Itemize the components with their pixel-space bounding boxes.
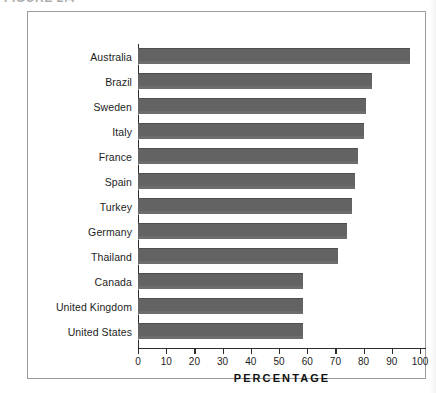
value-axis-tick-label: 100 bbox=[412, 356, 429, 367]
bar bbox=[138, 198, 352, 214]
bar-row: Spain bbox=[138, 169, 355, 194]
bar bbox=[138, 48, 410, 64]
bar-category-label: Sweden bbox=[93, 101, 132, 113]
value-axis-tick-mark bbox=[223, 349, 224, 354]
value-axis-tick-label: 40 bbox=[245, 356, 256, 367]
bar-category-label: Australia bbox=[90, 51, 132, 63]
bar-category-label: Thailand bbox=[91, 251, 132, 263]
value-axis-tick-mark bbox=[194, 349, 195, 354]
value-axis-tick-label: 30 bbox=[217, 356, 228, 367]
bar bbox=[138, 148, 358, 164]
value-axis-tick-label: 10 bbox=[161, 356, 172, 367]
value-axis-tick-label: 70 bbox=[330, 356, 341, 367]
bar-category-label: Germany bbox=[88, 226, 132, 238]
bar bbox=[138, 273, 303, 289]
bar bbox=[138, 323, 303, 339]
page-edge-shading bbox=[430, 0, 436, 393]
bar-category-label: Canada bbox=[95, 276, 132, 288]
bar-row: United Kingdom bbox=[138, 294, 303, 319]
value-axis-tick-mark bbox=[166, 349, 167, 354]
value-axis-tick-label: 80 bbox=[358, 356, 369, 367]
bar bbox=[138, 298, 303, 314]
bar-row: Brazil bbox=[138, 69, 372, 94]
value-axis-tick-mark bbox=[279, 349, 280, 354]
bar bbox=[138, 123, 364, 139]
figure-caption-text: FIGURE 2.4 bbox=[4, 0, 75, 5]
bar-category-label: Turkey bbox=[100, 201, 132, 213]
bar bbox=[138, 248, 338, 264]
bar bbox=[138, 173, 355, 189]
figure-frame: AustraliaBrazilSwedenItalyFranceSpainTur… bbox=[27, 11, 426, 379]
value-axis-line bbox=[138, 348, 426, 349]
bar-row: France bbox=[138, 144, 358, 169]
bar-row: Italy bbox=[138, 119, 364, 144]
value-axis-tick-mark bbox=[364, 349, 365, 354]
bar-row: United States bbox=[138, 319, 303, 344]
bar-row: Thailand bbox=[138, 244, 338, 269]
bar-category-label: Italy bbox=[112, 126, 132, 138]
bar-row: Canada bbox=[138, 269, 303, 294]
bar-category-label: France bbox=[99, 151, 132, 163]
bar-row: Australia bbox=[138, 44, 410, 69]
value-axis-tick-label: 20 bbox=[189, 356, 200, 367]
bar-row: Sweden bbox=[138, 94, 366, 119]
bar-row: Turkey bbox=[138, 194, 352, 219]
bar-category-label: United States bbox=[68, 326, 132, 338]
value-axis-tick-mark bbox=[392, 349, 393, 354]
value-axis-tick-mark bbox=[138, 349, 139, 354]
bar-row: Germany bbox=[138, 219, 347, 244]
bar-category-label: United Kingdom bbox=[56, 301, 132, 313]
value-axis-tick-label: 90 bbox=[386, 356, 397, 367]
value-axis-tick-mark bbox=[420, 349, 421, 354]
value-axis-tick-mark bbox=[251, 349, 252, 354]
bar-category-label: Brazil bbox=[105, 76, 132, 88]
bar-category-label: Spain bbox=[105, 176, 132, 188]
value-axis-title: PERCENTAGE bbox=[138, 372, 426, 384]
bar bbox=[138, 73, 372, 89]
bar bbox=[138, 98, 366, 114]
value-axis-tick-label: 0 bbox=[135, 356, 141, 367]
value-axis-tick-label: 50 bbox=[273, 356, 284, 367]
figure-caption-strip: FIGURE 2.4 bbox=[0, 0, 436, 7]
value-axis-tick-mark bbox=[307, 349, 308, 354]
value-axis-tick-mark bbox=[335, 349, 336, 354]
bar bbox=[138, 223, 347, 239]
value-axis-tick-label: 60 bbox=[302, 356, 313, 367]
